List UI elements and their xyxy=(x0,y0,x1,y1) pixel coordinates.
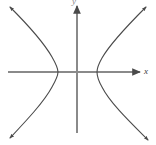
x-axis-label: x xyxy=(144,67,148,76)
y-axis-label: y xyxy=(72,0,76,6)
hyperbola-figure: x y xyxy=(0,0,156,145)
hyperbola-right-branch xyxy=(97,7,148,140)
graph-canvas xyxy=(0,0,156,145)
